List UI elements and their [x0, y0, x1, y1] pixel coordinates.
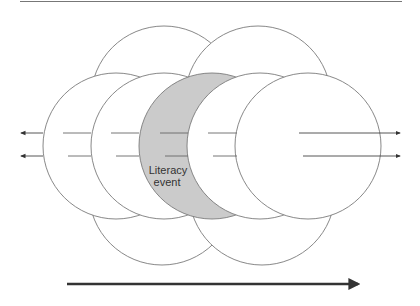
- left-arrows: [21, 133, 43, 156]
- middle-circle-5: [235, 73, 381, 219]
- literacy-event-label-line2: event: [154, 176, 181, 188]
- literacy-event-diagram: Literacy event: [0, 0, 420, 306]
- middle-row-circles: [43, 73, 381, 219]
- literacy-event-label-line1: Literacy: [149, 164, 188, 176]
